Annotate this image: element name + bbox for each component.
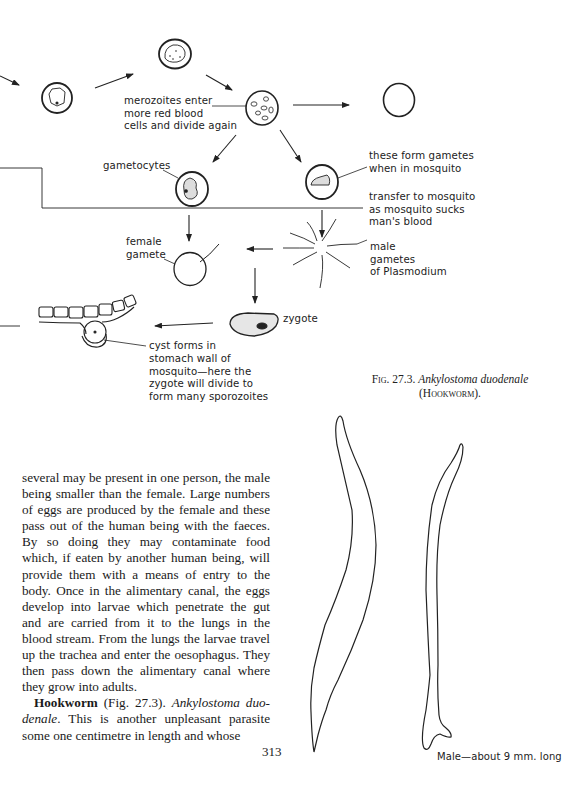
label-line: as mosquito sucks — [369, 204, 475, 217]
label-merozoites: merozoites enter more red blood cells an… — [124, 95, 237, 133]
male-hookworm-icon — [422, 444, 463, 749]
label-line: form many sporozoites — [149, 391, 268, 404]
label-line: more red blood — [124, 108, 237, 121]
label-male-length: Male—about 9 mm. long — [437, 751, 562, 764]
arrow-icon — [95, 74, 133, 88]
document-page: merozoites enter more red blood cells an… — [0, 0, 583, 797]
label-line: zygote will divide to — [149, 378, 268, 391]
label-zygote: zygote — [283, 313, 318, 326]
figure-reference: (Fig. 27.3). — [98, 695, 172, 710]
label-cyst: cyst forms in stomach wall of mosquito—h… — [149, 340, 268, 404]
body-text: several may be present in one person, th… — [22, 470, 270, 744]
stomach-wall-icon — [39, 294, 137, 347]
figure-caption: Fig. 27.3. Ankylostoma duodenale (Hookwo… — [330, 372, 570, 400]
female-gamete-icon — [174, 253, 206, 286]
caption-line-1: Fig. 27.3. Ankylostoma duodenale — [330, 372, 570, 386]
label-line: cells and divide again — [124, 120, 237, 133]
hookworm-heading: Hookworm — [34, 695, 98, 710]
label-gametocytes: gametocytes — [103, 160, 170, 173]
figure-common-name: (Hookworm). — [330, 386, 570, 400]
label-line: cyst forms in — [149, 340, 268, 353]
label-line: gametes — [370, 254, 447, 267]
label-line: of Plasmodium — [370, 266, 447, 279]
male-gametes-icon — [283, 219, 357, 288]
arrow-icon — [0, 76, 19, 85]
zygote-icon — [230, 313, 278, 336]
red-blood-cell-icon — [159, 40, 191, 69]
label-line: man's blood — [369, 216, 475, 229]
label-transfer: transfer to mosquito as mosquito sucks m… — [369, 191, 475, 229]
label-female-gamete: female gamete — [126, 236, 166, 261]
label-line: female — [126, 236, 166, 249]
label-line: transfer to mosquito — [369, 191, 475, 204]
empty-cell-icon — [384, 84, 415, 117]
label-line: these form gametes — [369, 150, 474, 163]
figure-number: Fig. 27.3. — [372, 373, 416, 385]
label-line: stomach wall of — [149, 353, 268, 366]
label-male-gametes: male gametes of Plasmodium — [370, 241, 447, 279]
red-blood-cell-icon — [42, 83, 72, 113]
paragraph-2: Hookworm (Fig. 27.3). Ankylostoma duo­de… — [22, 695, 270, 743]
label-line: when in mosquito — [369, 163, 474, 176]
female-hookworm-icon — [311, 416, 376, 752]
arrow-icon — [206, 75, 232, 90]
label-form-gametes: these form gametes when in mosquito — [369, 150, 474, 175]
paragraph-2-text: . This is another unpleasant parasite so… — [22, 711, 270, 742]
page-number: 313 — [262, 744, 282, 760]
label-line: merozoites enter — [124, 95, 237, 108]
label-line: gamete — [126, 249, 166, 262]
label-line: mosquito—here the — [149, 366, 268, 379]
figure-species: Ankylostoma duodenale — [418, 373, 528, 385]
paragraph-1: several may be present in one person, th… — [22, 470, 270, 695]
label-line: male — [370, 241, 447, 254]
